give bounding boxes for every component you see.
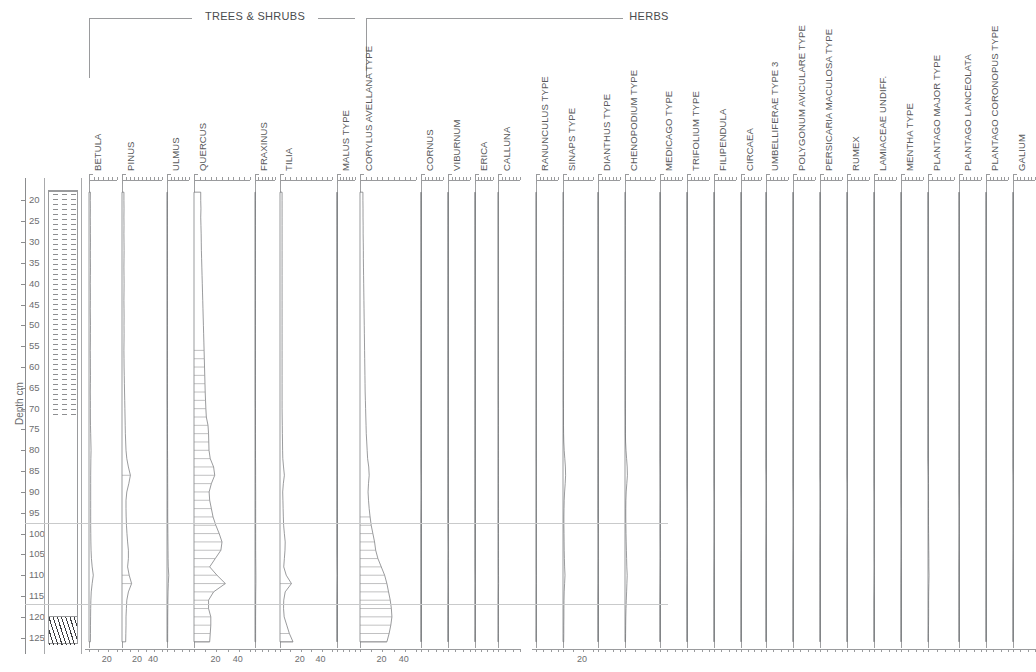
taxon-top-axis bbox=[959, 180, 981, 181]
taxon-axis-tick bbox=[675, 649, 676, 652]
taxon-axis-tick bbox=[146, 649, 147, 652]
taxon-name-stub-cap bbox=[475, 174, 479, 175]
depth-tick bbox=[21, 492, 25, 493]
taxon-name-stub bbox=[625, 174, 626, 184]
taxon-axis-tick bbox=[311, 649, 312, 652]
taxon-name-stub bbox=[89, 174, 90, 184]
taxon-axis-tick-top bbox=[905, 177, 906, 180]
depth-tick-label: 30 bbox=[29, 236, 40, 247]
taxon-axis-tick bbox=[205, 649, 206, 652]
taxon-axis-tick-top bbox=[211, 177, 212, 180]
taxon-axis-tick-top bbox=[1020, 177, 1021, 180]
taxon-baseline bbox=[820, 180, 821, 648]
group-label: HERBS bbox=[627, 10, 671, 22]
taxon-axis-tick-top bbox=[751, 177, 752, 180]
depth-tick-label: 25 bbox=[29, 215, 40, 226]
taxon-axis-tick bbox=[655, 649, 656, 652]
taxon-baseline bbox=[498, 180, 499, 648]
taxon-axis-tick bbox=[667, 649, 668, 652]
taxon-axis-tick-top bbox=[815, 177, 816, 180]
taxon-axis-tick bbox=[714, 649, 715, 652]
taxon-axis-tick bbox=[815, 649, 816, 652]
taxon-axis-tick bbox=[896, 649, 897, 652]
taxon-axis-tick bbox=[250, 649, 251, 652]
taxon-axis-tick bbox=[660, 649, 661, 652]
taxon-baseline bbox=[448, 180, 449, 648]
depth-tick-label: 125 bbox=[29, 632, 45, 643]
taxon-axis-tick-top bbox=[698, 177, 699, 180]
taxon-axis-tick bbox=[167, 649, 168, 652]
taxon-axis-tick bbox=[881, 649, 882, 652]
depth-tick-label: 40 bbox=[29, 278, 40, 289]
taxon-axis-tick bbox=[573, 649, 574, 652]
taxon-bottom-axis bbox=[737, 649, 761, 650]
taxon-bottom-axis bbox=[656, 649, 682, 650]
taxon-name-label: SINAPS TYPE bbox=[566, 108, 577, 171]
taxon-axis-tick-top bbox=[945, 177, 946, 180]
taxon-axis-tick-top bbox=[838, 177, 839, 180]
taxon-axis-tick-top bbox=[322, 177, 323, 180]
taxon-name-label: CALLUNA bbox=[501, 126, 512, 171]
depth-tick-label: 65 bbox=[29, 382, 40, 393]
taxon-name-stub-cap bbox=[820, 174, 824, 175]
taxon-name-label: CORYLUS AVELLANA TYPE bbox=[363, 46, 374, 171]
taxon-name-stub-cap bbox=[563, 174, 567, 175]
depth-tick-label: 100 bbox=[29, 528, 45, 539]
taxon-axis-tick-top bbox=[425, 177, 426, 180]
depth-tick-label: 95 bbox=[29, 507, 40, 518]
taxon-name-label: GALIUM bbox=[1016, 134, 1027, 171]
taxon-name-label: ERICA bbox=[478, 141, 489, 171]
taxon-axis-tick-top bbox=[142, 177, 143, 180]
taxon-axis-tick bbox=[360, 649, 361, 652]
taxon-axis-tick-top bbox=[650, 177, 651, 180]
taxon-axis-tick-top bbox=[452, 177, 453, 180]
taxon-axis-tick-top bbox=[691, 177, 692, 180]
taxon-name-stub bbox=[1013, 174, 1014, 184]
taxon-name-stub bbox=[255, 174, 256, 184]
taxon-axis-tick-top bbox=[405, 177, 406, 180]
taxon-axis-tick-top bbox=[645, 177, 646, 180]
taxon-axis-tick-top bbox=[919, 177, 920, 180]
taxon-axis-tick bbox=[593, 649, 594, 652]
taxon-axis-tick-top bbox=[154, 177, 155, 180]
taxon-axis-tick-top bbox=[493, 177, 494, 180]
taxon-name-stub-cap bbox=[901, 174, 905, 175]
taxon-name-stub bbox=[167, 174, 168, 184]
taxon-axis-tick-top bbox=[222, 177, 223, 180]
taxon-name-stub-cap bbox=[741, 174, 745, 175]
